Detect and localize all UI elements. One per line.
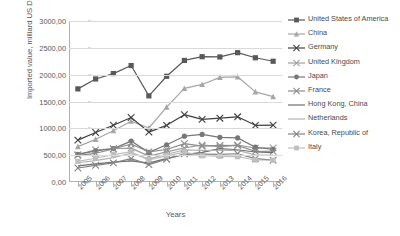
legend-label: United States of America [308,14,388,23]
legend-label: China [308,28,327,37]
legend-label: Korea, Republic of [308,128,368,137]
legend-key-icon [288,43,305,53]
legend-item[interactable]: Italy [288,142,400,153]
gridline [69,48,282,49]
legend-item[interactable]: Japan [288,71,400,82]
legend-item[interactable]: China [288,28,400,39]
y-axis-tick-label: 1500,00 [39,97,66,106]
legend-key-icon [288,15,305,25]
legend-key-icon [288,58,305,68]
legend-label: Italy [308,142,321,151]
legend-label: United Kingdom [308,57,360,66]
y-axis-tick-label: 2500,00 [39,43,66,52]
legend-key-icon [288,86,305,96]
y-axis-tick-labels: 3000,002500,002000,001500,001000,00500,0… [22,0,66,236]
chart-legend: United States of AmericaChinaGermanyUnit… [288,14,400,156]
line-chart: Imported value, milliard US Dollar 3000,… [0,0,400,236]
y-axis-tick-label: 500,00 [43,151,66,160]
legend-key-icon [288,72,305,82]
legend-label: Netherlands [308,113,347,122]
gridline [69,155,282,156]
series-japan [75,132,275,157]
legend-key-icon [288,143,305,153]
x-axis-title: Years [69,210,282,219]
legend-item[interactable]: United Kingdom [288,57,400,68]
legend-key-icon [288,100,305,110]
legend-item[interactable]: Hong Kong, China [288,99,400,110]
gridline [69,75,282,76]
gridline [69,128,282,129]
gridline [69,21,282,22]
legend-key-icon [288,29,305,39]
legend-item[interactable]: Germany [288,42,400,53]
legend-key-icon [288,114,305,124]
legend-label: Hong Kong, China [308,99,368,108]
series-china [75,74,276,149]
legend-item[interactable]: Netherlands [288,113,400,124]
legend-label: Germany [308,42,338,51]
plot-area [69,21,282,182]
y-axis-tick-label: 1000,00 [39,124,66,133]
legend-key-icon [288,129,305,139]
y-axis-tick-label: 0,00 [52,178,66,187]
legend-item[interactable]: United States of America [288,14,400,25]
legend-item[interactable]: Korea, Republic of [288,128,400,139]
legend-item[interactable]: France [288,85,400,96]
gridline [69,102,282,103]
legend-label: Japan [308,71,328,80]
y-axis-tick-label: 3000,00 [39,17,66,26]
legend-label: France [308,85,331,94]
y-axis-tick-label: 2000,00 [39,70,66,79]
